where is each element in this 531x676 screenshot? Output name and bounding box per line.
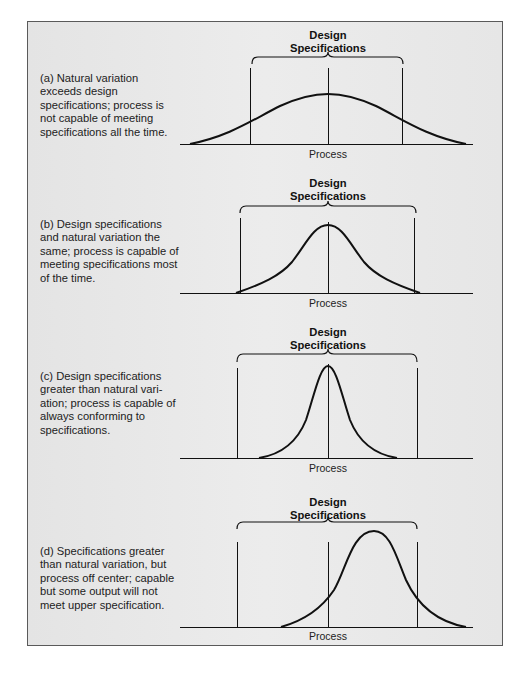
panel-d-curve (281, 531, 466, 627)
panel-c-graph (180, 349, 473, 459)
panel-b-graph (180, 201, 473, 294)
distribution-diagrams (0, 0, 531, 676)
panel-a-graph (180, 52, 473, 145)
panel-a-spec-brace (252, 52, 403, 64)
panel-b-spec-brace (240, 201, 416, 213)
panel-d-spec-brace (237, 517, 417, 529)
panel-c-spec-brace (237, 349, 417, 362)
panel-d-graph (180, 517, 473, 628)
